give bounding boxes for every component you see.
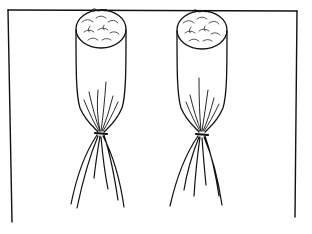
left-bag bbox=[71, 9, 126, 208]
line-drawing bbox=[0, 0, 312, 234]
frame bbox=[8, 10, 297, 222]
right-bag bbox=[170, 10, 227, 206]
